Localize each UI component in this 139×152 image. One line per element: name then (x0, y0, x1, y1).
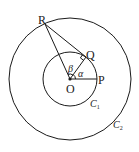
label-C1: C1 (90, 98, 100, 110)
label-C1-subscript: 1 (97, 104, 100, 110)
label-beta: β (67, 63, 73, 74)
label-P: P (98, 73, 105, 87)
label-Q: Q (86, 48, 95, 62)
angle-alpha-arc (73, 75, 75, 79)
label-C2-subscript: 2 (120, 125, 123, 131)
label-R: R (38, 13, 46, 27)
label-O: O (66, 82, 75, 96)
geometry-diagram: R Q P O β α C1 C2 (0, 0, 139, 152)
label-alpha: α (78, 68, 84, 79)
label-C2: C2 (113, 119, 123, 131)
center-point-O (68, 77, 71, 80)
angle-beta-arc (68, 74, 73, 75)
segment-OR (45, 24, 70, 79)
